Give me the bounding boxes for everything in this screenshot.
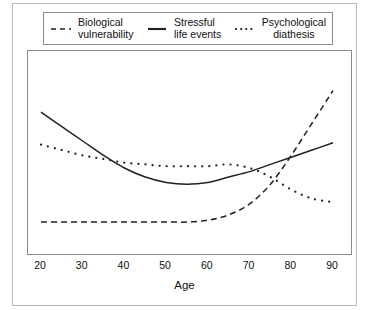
series-line-stressful-life-events bbox=[41, 112, 333, 184]
solid-line-sample-icon bbox=[146, 24, 168, 34]
dashed-line-sample-icon bbox=[50, 24, 72, 34]
x-axis-tick-70: 70 bbox=[243, 259, 255, 271]
legend-entry-stressful-life-events: Stressful life events bbox=[146, 17, 221, 40]
legend-label-stressful-life-events: Stressful life events bbox=[174, 17, 221, 40]
x-axis-tick-labels: 2030405060708090 bbox=[27, 259, 352, 273]
legend-label-line2: life events bbox=[174, 29, 221, 41]
x-axis-title: Age bbox=[0, 279, 369, 291]
legend-entry-psychological-diathesis: Psychological diathesis bbox=[234, 17, 326, 40]
x-axis-tick-30: 30 bbox=[76, 259, 88, 271]
x-axis-tick-80: 80 bbox=[284, 259, 296, 271]
x-axis-tick-50: 50 bbox=[159, 259, 171, 271]
legend-label-psychological-diathesis: Psychological diathesis bbox=[262, 17, 326, 40]
legend-label-line2: diathesis bbox=[262, 29, 326, 41]
series-line-psychological-diathesis bbox=[41, 145, 333, 203]
dotted-line-sample-icon bbox=[234, 24, 256, 34]
legend-label-line1: Biological bbox=[78, 17, 133, 29]
legend-label-line1: Psychological bbox=[262, 17, 326, 29]
plot-curves bbox=[28, 51, 353, 256]
chart-legend: Biological vulnerability Stressful life … bbox=[43, 12, 333, 45]
x-axis-tick-20: 20 bbox=[34, 259, 46, 271]
x-axis-tick-90: 90 bbox=[326, 259, 338, 271]
series-line-biological-vulnerability bbox=[41, 91, 333, 223]
plot-area bbox=[27, 50, 352, 255]
x-axis-tick-60: 60 bbox=[201, 259, 213, 271]
legend-label-biological-vulnerability: Biological vulnerability bbox=[78, 17, 133, 40]
legend-label-line2: vulnerability bbox=[78, 29, 133, 41]
chart-figure: Biological vulnerability Stressful life … bbox=[0, 0, 369, 310]
x-axis-tick-40: 40 bbox=[118, 259, 130, 271]
legend-entry-biological-vulnerability: Biological vulnerability bbox=[50, 17, 133, 40]
legend-label-line1: Stressful bbox=[174, 17, 221, 29]
